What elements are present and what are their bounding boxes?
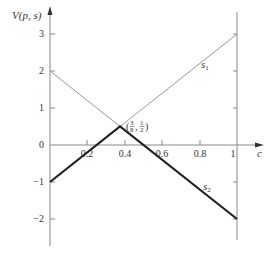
svg-text:): ) bbox=[145, 121, 148, 133]
y-tick-label: 1 bbox=[39, 102, 44, 113]
chart: 3 2 1 0 −1 −2 0.2 0.4 0.6 0.8 1 V(p, s) … bbox=[0, 0, 278, 254]
x-axis-label: c bbox=[257, 147, 262, 159]
x-tick-label: 0.4 bbox=[119, 148, 132, 159]
x-tick-label: 0.8 bbox=[194, 148, 207, 159]
y-tick-label: −2 bbox=[33, 213, 44, 224]
x-tick-label: 1 bbox=[231, 148, 236, 159]
y-tick-label: 2 bbox=[39, 65, 44, 76]
svg-text:,: , bbox=[135, 121, 138, 132]
intersection-annotation: ( 3 8 , 1 2 ) bbox=[126, 119, 148, 134]
y-tick-label: 3 bbox=[39, 28, 44, 39]
y-axis-label: V(p, s) bbox=[12, 9, 42, 22]
series-s1-label: s1 bbox=[201, 58, 209, 72]
lower-envelope-line bbox=[50, 127, 237, 220]
y-tick-label-zero: 0 bbox=[39, 139, 44, 150]
svg-text:8: 8 bbox=[130, 126, 134, 134]
svg-text:2: 2 bbox=[140, 126, 144, 134]
y-tick-label: −1 bbox=[33, 176, 44, 187]
series-s2-label: s2 bbox=[203, 180, 211, 194]
y-axis-arrow-icon bbox=[48, 6, 53, 15]
